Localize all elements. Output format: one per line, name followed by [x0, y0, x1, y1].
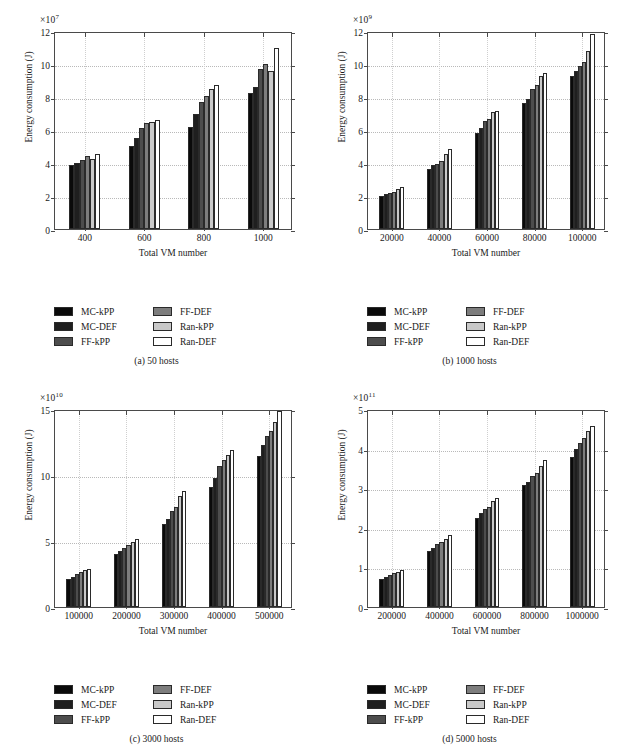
- y-axis-tick-mark: [364, 165, 368, 166]
- x-axis-tick-label: 400: [78, 233, 92, 243]
- legend-item: MC-kPP: [367, 684, 430, 695]
- legend-swatch-icon: [367, 685, 386, 695]
- y-axis-tick-mark: [364, 99, 368, 100]
- x-axis-tick-label: 20000: [380, 233, 404, 243]
- y-axis-tick-label: 2: [358, 193, 363, 203]
- legend-item-label: Ran-DEF: [180, 337, 216, 347]
- legend-swatch-icon: [54, 322, 73, 332]
- y-axis-tick-mark: [291, 66, 295, 67]
- y-axis-tick-mark: [364, 609, 368, 610]
- legend-item: FF-DEF: [466, 306, 529, 317]
- legend-swatch-icon: [367, 322, 386, 332]
- legend-item: Ran-kPP: [153, 699, 216, 710]
- figure-page: ×107Energy consumption (J)02468101240060…: [0, 0, 626, 756]
- legend-item: FF-DEF: [466, 684, 529, 695]
- legend-item-label: Ran-kPP: [180, 322, 214, 332]
- y-axis-tick-label: 2: [45, 193, 50, 203]
- legend-item-label: Ran-kPP: [493, 700, 527, 710]
- y-axis-tick-label: 10: [354, 61, 364, 71]
- y-axis-tick-mark: [291, 477, 295, 478]
- legend-item: MC-DEF: [367, 699, 430, 710]
- legend-item-label: Ran-DEF: [493, 337, 529, 347]
- y-axis-tick-mark: [291, 132, 295, 133]
- y-axis-tick-label: 6: [45, 127, 50, 137]
- x-axis-tick-label: 800: [197, 233, 211, 243]
- bar-group: [114, 411, 139, 607]
- legend: MC-kPPMC-DEFFF-kPPFF-DEFRan-kPPRan-DEF: [54, 684, 216, 725]
- panel-caption: (d) 5000 hosts: [313, 734, 626, 744]
- y-axis-tick-label: 2: [358, 525, 363, 535]
- legend-item: FF-DEF: [153, 306, 216, 317]
- x-axis-tick-label: 100000: [568, 233, 597, 243]
- bar-rect: [400, 570, 404, 607]
- y-axis-tick-mark: [604, 99, 608, 100]
- y-axis-exponent-mantissa: ×10: [353, 393, 368, 403]
- y-axis-exponent-mantissa: ×10: [40, 15, 55, 25]
- legend-item-label: MC-kPP: [394, 307, 427, 317]
- legend-column: FF-DEFRan-kPPRan-DEF: [153, 306, 216, 347]
- y-axis-tick-label: 6: [358, 127, 363, 137]
- legend: MC-kPPMC-DEFFF-kPPFF-DEFRan-kPPRan-DEF: [367, 684, 529, 725]
- x-axis-tick-label: 600: [137, 233, 151, 243]
- x-axis-tick-label: 100000: [65, 611, 94, 621]
- y-axis-tick-mark: [51, 198, 55, 199]
- legend-swatch-icon: [153, 337, 172, 347]
- legend-item: MC-DEF: [54, 699, 117, 710]
- y-axis-exponent: ×109: [353, 14, 372, 26]
- y-axis-tick-label: 3: [358, 485, 363, 495]
- y-axis-tick-label: 15: [41, 406, 51, 416]
- legend-swatch-icon: [367, 715, 386, 725]
- chart-panel-a: ×107Energy consumption (J)02468101240060…: [0, 0, 313, 378]
- y-axis-exponent: ×1010: [40, 392, 63, 404]
- y-axis-tick-label: 4: [358, 160, 363, 170]
- y-axis-tick-mark: [51, 33, 55, 34]
- y-axis-tick-label: 5: [45, 538, 50, 548]
- y-axis-tick-label: 12: [354, 28, 364, 38]
- legend-item: FF-kPP: [54, 336, 117, 347]
- y-axis-tick-label: 0: [358, 226, 363, 236]
- y-axis-tick-mark: [51, 411, 55, 412]
- y-axis-tick-mark: [51, 477, 55, 478]
- bar-rect: [95, 154, 100, 229]
- bar-rect: [448, 149, 452, 229]
- y-axis-tick-label: 1: [358, 564, 363, 574]
- y-axis-tick-label: 8: [358, 94, 363, 104]
- chart-panel-c: ×1010Energy consumption (J)0510151000002…: [0, 378, 313, 756]
- legend-item-label: MC-kPP: [81, 307, 114, 317]
- y-axis-tick-mark: [364, 198, 368, 199]
- x-axis-tick-label: 300000: [160, 611, 189, 621]
- legend-item: Ran-kPP: [466, 321, 529, 332]
- axes-frame: 0123452000004000006000008000001000000: [367, 410, 605, 608]
- x-axis-tick-label: 1000000: [566, 611, 599, 621]
- x-axis-label: Total VM number: [367, 248, 605, 258]
- legend-swatch-icon: [367, 337, 386, 347]
- y-axis-tick-mark: [291, 231, 295, 232]
- y-axis-exponent-power: 11: [368, 391, 375, 399]
- y-axis-tick-mark: [604, 411, 608, 412]
- bar-group: [427, 33, 452, 229]
- legend-column: MC-kPPMC-DEFFF-kPP: [54, 306, 117, 347]
- legend-item: Ran-DEF: [153, 336, 216, 347]
- y-axis-tick-mark: [291, 165, 295, 166]
- legend-item-label: Ran-kPP: [493, 322, 527, 332]
- legend-item-label: Ran-DEF: [493, 715, 529, 725]
- legend-swatch-icon: [367, 700, 386, 710]
- legend-item: MC-kPP: [54, 306, 117, 317]
- legend-swatch-icon: [153, 322, 172, 332]
- y-axis-tick-mark: [604, 569, 608, 570]
- y-axis-tick-label: 0: [358, 604, 363, 614]
- y-axis-exponent-mantissa: ×10: [40, 393, 55, 403]
- legend-column: MC-kPPMC-DEFFF-kPP: [367, 684, 430, 725]
- y-axis-tick-mark: [604, 33, 608, 34]
- y-axis-tick-mark: [364, 569, 368, 570]
- x-axis-tick-label: 800000: [520, 611, 549, 621]
- bar-group: [570, 33, 595, 229]
- bar-rect: [495, 498, 499, 607]
- legend-item: MC-DEF: [367, 321, 430, 332]
- y-axis-exponent: ×1011: [353, 392, 376, 404]
- bar-rect: [135, 539, 139, 607]
- y-axis-tick-mark: [604, 165, 608, 166]
- legend-item-label: FF-kPP: [81, 337, 110, 347]
- legend-item-label: MC-DEF: [81, 700, 117, 710]
- y-axis-tick-mark: [51, 66, 55, 67]
